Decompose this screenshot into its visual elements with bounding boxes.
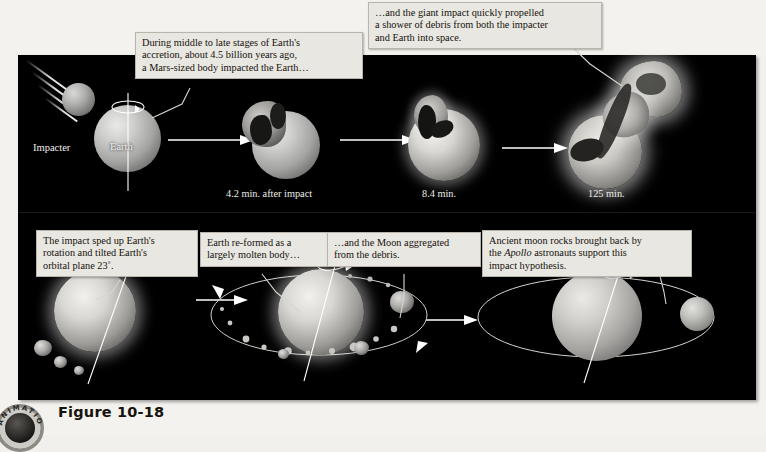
callout-line: and Earth into space. bbox=[375, 32, 595, 44]
callout-line: The impact sped up Earth's bbox=[43, 235, 191, 247]
callout-apollo: Ancient moon rocks brought back by the A… bbox=[482, 230, 692, 277]
figure-caption: Figure 10-18 bbox=[58, 404, 164, 420]
illustration-panel: Impacter Earth 4.2 min. after impact bbox=[18, 55, 756, 400]
impacter-sphere bbox=[62, 83, 95, 116]
callout-line: Ancient moon rocks brought back by bbox=[489, 235, 685, 247]
stage-3-time-label: 125 min. bbox=[588, 188, 625, 199]
badge-globe-icon bbox=[5, 413, 35, 443]
row-divider bbox=[18, 212, 756, 213]
callout-line: from the debris. bbox=[334, 249, 474, 261]
callout-line: rotation and tilted Earth's bbox=[43, 247, 191, 259]
callout-line: largely molten body… bbox=[207, 249, 325, 261]
callout-line: a shower of debris from both the impacte… bbox=[375, 19, 595, 31]
callout-line: the Apollo astronauts support this bbox=[489, 247, 685, 259]
callout-molten: Earth re-formed as a largely molten body… bbox=[200, 232, 332, 267]
callout-rotation: The impact sped up Earth's rotation and … bbox=[36, 230, 198, 277]
callout-impact: During middle to late stages of Earth's … bbox=[135, 32, 363, 79]
stage-2-group bbox=[240, 97, 335, 192]
stage-3-group bbox=[400, 91, 500, 191]
stage-2-time-label: 8.4 min. bbox=[422, 188, 456, 199]
stage-4-group bbox=[558, 57, 708, 197]
callout-line: …and the Moon aggregated bbox=[334, 237, 474, 249]
callout-moon-aggregated: …and the Moon aggregated from the debris… bbox=[327, 232, 481, 267]
callout-line: accretion, about 4.5 billion years ago, bbox=[142, 49, 356, 61]
earth-label: Earth bbox=[110, 141, 133, 152]
callout-line: orbital plane 23˚. bbox=[43, 260, 191, 272]
callout-line: Earth re-formed as a bbox=[207, 237, 325, 249]
callout-debris: …and the giant impact quickly propelled … bbox=[368, 2, 602, 49]
debris-chunk bbox=[34, 340, 52, 356]
callout-line: …and the giant impact quickly propelled bbox=[375, 7, 595, 19]
impacter-label: Impacter bbox=[33, 142, 70, 153]
stage-1-time-label: 4.2 min. after impact bbox=[226, 188, 312, 199]
animation-badge-icon: ANIMATION bbox=[0, 404, 44, 452]
callout-line: During middle to late stages of Earth's bbox=[142, 37, 356, 49]
earth-rotation-axis-1 bbox=[100, 85, 190, 195]
callout-line: a Mars-sized body impacted the Earth… bbox=[142, 62, 356, 74]
callout-line: impact hypothesis. bbox=[489, 260, 685, 272]
moon-sphere bbox=[680, 297, 714, 331]
